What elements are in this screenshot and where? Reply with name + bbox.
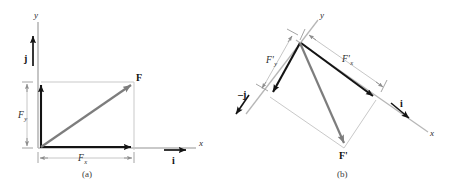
panel-a-fx-label: Fx [77, 153, 87, 165]
panel-a-resultant-label: F [136, 72, 142, 83]
panel-b-y-axis-label: y [319, 10, 324, 20]
panel-a-fy-label-group: Fy [17, 110, 27, 122]
panel-b-fy-dimension-arrow-bottom [262, 82, 266, 88]
panel-b-fy-label-group: F'y [265, 55, 277, 67]
panel-b-y-axis [246, 20, 318, 114]
panel-a-resultant-vector [41, 85, 131, 147]
panel-b-fx-dimension-arrow-left [309, 35, 316, 40]
panel-a-i-unit-vector-label: i [172, 155, 175, 166]
panel-b-fy-label: F'y [265, 55, 277, 67]
panel-b-resultant-label: F' [339, 150, 348, 161]
panel-b-fy-dimension-tick-top [287, 29, 298, 35]
panel-b-guide-left [270, 97, 344, 148]
panel-b-fx-dimension-arrow-right [376, 82, 383, 87]
panel-b-guide-right [344, 100, 376, 148]
panel-a: y x j i Fy [17, 10, 203, 179]
panel-a-x-axis-label: x [198, 138, 203, 148]
panel-b-i-unit-vector-label: i [400, 98, 403, 109]
panel-a-j-unit-vector-label: j [23, 53, 27, 64]
panel-b-minus-j-unit-vector-label: –j [237, 89, 246, 100]
panel-b-x-axis-label: x [429, 128, 434, 138]
panel-b: y x –j i F'y [236, 10, 434, 179]
panel-a-fy-label: Fy [17, 110, 27, 122]
panel-b-y-component-vector [273, 43, 300, 92]
panel-a-fx-label-group: Fx [77, 153, 87, 165]
figure-canvas: y x j i Fy [0, 0, 455, 193]
panel-a-caption: (a) [82, 169, 92, 179]
panel-b-caption: (b) [337, 169, 348, 179]
panel-b-fy-dimension-arrow-top [288, 36, 292, 42]
panel-a-y-axis-label: y [33, 10, 38, 20]
vector-decomposition-figure: y x j i Fy [0, 0, 455, 193]
panel-b-fx-label: F'x [341, 54, 353, 66]
panel-b-fx-label-group: F'x [341, 54, 353, 66]
